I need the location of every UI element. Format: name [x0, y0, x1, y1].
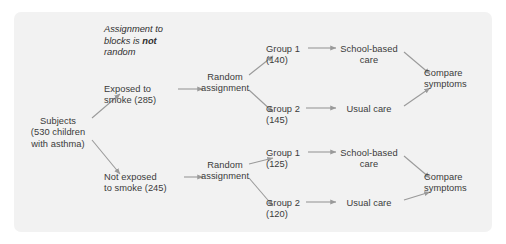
- annotation-emphasis-not: not: [142, 36, 156, 46]
- node-random-assignment-bottom: Random assignment: [192, 160, 258, 183]
- node-group-2-bottom: Group 2 (120): [266, 198, 320, 221]
- annotation-line-1: Assignment to: [104, 24, 163, 34]
- node-compare-symptoms-bottom: Compare symptoms: [424, 172, 490, 195]
- node-random-assignment-top: Random assignment: [192, 72, 258, 95]
- node-group-2-top: Group 2 (145): [266, 104, 320, 127]
- node-subjects: Subjects (530 children with asthma): [16, 116, 100, 150]
- node-usual-care-top: Usual care: [332, 104, 406, 115]
- node-group-1-top: Group 1 (140): [266, 44, 320, 67]
- node-exposed-to-smoke: Exposed to smoke (285): [104, 84, 184, 107]
- annotation-blocks-not-random: Assignment toblocks is notrandom: [104, 24, 190, 59]
- node-not-exposed-to-smoke: Not exposed to smoke (245): [104, 172, 188, 195]
- annotation-line-3: random: [104, 47, 136, 57]
- node-compare-symptoms-top: Compare symptoms: [424, 68, 490, 91]
- node-usual-care-bottom: Usual care: [332, 198, 406, 209]
- node-school-based-care-top: School-based care: [332, 44, 406, 67]
- node-school-based-care-bottom: School-based care: [332, 148, 406, 171]
- block-design-flowchart: Assignment toblocks is notrandom Subject…: [0, 0, 506, 244]
- annotation-line-2-prefix: blocks is: [104, 36, 142, 46]
- node-group-1-bottom: Group 1 (125): [266, 148, 320, 171]
